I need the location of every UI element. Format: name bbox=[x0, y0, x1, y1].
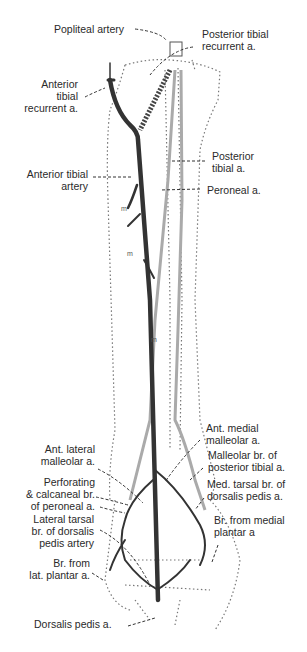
label-br-medial-plantar: Br. from medialplantar a bbox=[214, 514, 285, 538]
label-br-lat-plantar: Br. fromlat. plantar a. bbox=[10, 557, 90, 581]
muscle-marker: m bbox=[127, 250, 133, 257]
label-posterior-tibial: Posteriortibial a. bbox=[212, 150, 254, 174]
label-dorsalis-pedis: Dorsalis pedis a. bbox=[34, 618, 112, 630]
label-posterior-tibial-recurrent: Posterior tibialrecurrent a. bbox=[202, 28, 269, 52]
label-popliteal-artery: Popliteal artery bbox=[54, 23, 124, 35]
label-ant-lateral-malleolar: Ant. lateralmalleolar a. bbox=[20, 443, 95, 467]
label-med-tarsal: Med. tarsal br. ofdorsalis pedis a. bbox=[207, 478, 285, 502]
label-malleolar-br-posterior-tibial: Malleolar br. ofposterior tibial a. bbox=[208, 449, 285, 473]
label-ant-medial-malleolar: Ant. medialmalleolar a. bbox=[206, 422, 260, 446]
label-peroneal: Peroneal a. bbox=[207, 184, 261, 196]
muscle-marker: m bbox=[121, 205, 127, 212]
label-lateral-tarsal: Lateral tarsalbr. of dorsalispedis arter… bbox=[10, 513, 94, 549]
label-anterior-tibial-recurrent: Anteriortibialrecurrent a. bbox=[18, 78, 78, 114]
label-anterior-tibial-artery: Anterior tibialartery bbox=[10, 168, 88, 192]
muscle-marker: m bbox=[151, 336, 157, 343]
label-perforating-calcaneal: Perforating& calcaneal br.of peroneal a. bbox=[10, 476, 95, 512]
